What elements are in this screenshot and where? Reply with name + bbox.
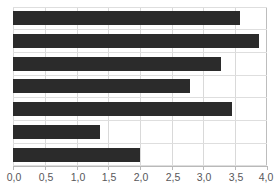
x-axis-tick xyxy=(13,167,14,170)
plot-area xyxy=(13,7,267,166)
x-tick-label: 0,0 xyxy=(7,171,21,183)
gridline-horizontal xyxy=(13,29,267,30)
x-axis-tick xyxy=(108,167,109,170)
x-axis-tick xyxy=(77,167,78,170)
x-tick-label: 2,0 xyxy=(134,171,148,183)
gridline-horizontal xyxy=(13,7,267,8)
x-axis-tick xyxy=(235,167,236,170)
gridline-horizontal xyxy=(13,75,267,76)
bar-row xyxy=(13,79,267,93)
x-axis-tick xyxy=(140,167,141,170)
x-tick-label: 1,0 xyxy=(71,171,85,183)
x-axis-tick xyxy=(203,167,204,170)
bar-row xyxy=(13,148,267,162)
x-axis-tick xyxy=(172,167,173,170)
x-tick-label: 3,5 xyxy=(229,171,243,183)
bar[interactable] xyxy=(13,125,100,139)
bar-row xyxy=(13,34,267,48)
bar[interactable] xyxy=(13,148,140,162)
bar-row xyxy=(13,11,267,25)
x-tick-label: 0,5 xyxy=(39,171,53,183)
x-tick-label: 1,5 xyxy=(102,171,116,183)
x-tick-label: 4,0 xyxy=(259,171,273,183)
bar[interactable] xyxy=(13,79,190,93)
bar[interactable] xyxy=(13,34,259,48)
gridline-horizontal xyxy=(13,52,267,53)
x-axis-tick xyxy=(267,167,268,170)
bar-row xyxy=(13,125,267,139)
x-tick-label: 3,0 xyxy=(197,171,211,183)
gridline-horizontal xyxy=(13,143,267,144)
bar-row xyxy=(13,102,267,116)
bar-chart: 0,0 0,5 1,0 1,5 2,0 2,5 3,0 3,5 4,0 xyxy=(0,0,274,191)
bar[interactable] xyxy=(13,57,221,71)
x-axis-tick xyxy=(45,167,46,170)
x-tick-label: 2,5 xyxy=(166,171,180,183)
bar-row xyxy=(13,57,267,71)
gridline-horizontal xyxy=(13,97,267,98)
bar[interactable] xyxy=(13,11,240,25)
bar[interactable] xyxy=(13,102,232,116)
gridline-horizontal xyxy=(13,120,267,121)
